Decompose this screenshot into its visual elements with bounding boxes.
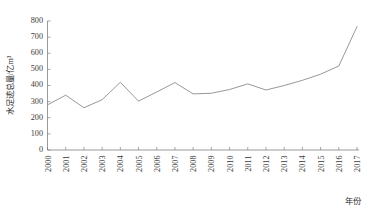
x-tick-label: 2013 <box>280 156 289 172</box>
x-tick-label: 2000 <box>44 156 53 172</box>
x-axis-title: 年份 <box>345 196 362 206</box>
x-tick-label: 2011 <box>244 156 253 172</box>
x-tick-label: 2017 <box>353 156 362 172</box>
x-tick-label: 2004 <box>116 156 125 172</box>
y-tick-label: 200 <box>31 113 43 122</box>
x-tick-label: 2001 <box>62 156 71 172</box>
x-tick-label: 2006 <box>153 156 162 172</box>
y-tick-label: 700 <box>31 32 43 41</box>
y-axis: 0100200300400500600700800 <box>31 16 51 154</box>
chart-figure: 0100200300400500600700800 20002001200220… <box>0 0 379 211</box>
y-tick-label: 100 <box>31 129 43 138</box>
y-axis-title: 水足迹总量/亿m³ <box>5 55 15 115</box>
x-tick-label: 2008 <box>189 156 198 172</box>
x-tick-label: 2002 <box>80 156 89 172</box>
y-tick-label: 400 <box>31 80 43 89</box>
x-tick-label: 2010 <box>226 156 235 172</box>
x-tick-label: 2012 <box>262 156 271 172</box>
x-tick-label: 2015 <box>317 156 326 172</box>
y-tick-label: 0 <box>39 145 43 154</box>
y-tick-label: 500 <box>31 64 43 73</box>
data-series-line <box>48 27 358 108</box>
line-chart: 0100200300400500600700800 20002001200220… <box>0 0 379 211</box>
x-tick-label: 2009 <box>207 156 216 172</box>
x-tick-label: 2014 <box>298 156 307 172</box>
y-tick-label: 600 <box>31 48 43 57</box>
y-tick-label: 300 <box>31 97 43 106</box>
x-tick-label: 2005 <box>135 156 144 172</box>
x-axis: 2000200120022003200420052006200720082009… <box>44 147 363 172</box>
x-tick-label: 2003 <box>98 156 107 172</box>
data-series-group <box>48 27 358 108</box>
x-tick-label: 2007 <box>171 156 180 172</box>
y-tick-label: 800 <box>31 16 43 25</box>
x-tick-label: 2016 <box>335 156 344 172</box>
